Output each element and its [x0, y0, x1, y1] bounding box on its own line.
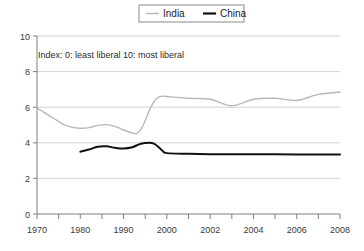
chart-container: 0246810 19701980199020002002200420062008…: [0, 0, 364, 251]
y-tick-label-0: 0: [25, 210, 30, 220]
chart-background: [0, 0, 364, 251]
x-tick-label-2002: 2002: [200, 225, 220, 235]
y-tick-label-6: 6: [25, 103, 30, 113]
x-tick-label-1970: 1970: [27, 225, 47, 235]
chart-annotation: Index: 0: least liberal 10: most liberal: [38, 50, 184, 60]
y-tick-label-2: 2: [25, 174, 30, 184]
y-tick-label-4: 4: [25, 138, 30, 148]
x-tick-label-1980: 1980: [70, 225, 90, 235]
chart-legend: IndiaChina: [139, 5, 247, 22]
legend-label-china: China: [220, 8, 247, 19]
y-tick-label-10: 10: [20, 32, 30, 42]
y-tick-label-8: 8: [25, 67, 30, 77]
x-tick-label-2004: 2004: [243, 225, 263, 235]
x-tick-label-2008: 2008: [330, 225, 350, 235]
x-tick-label-2006: 2006: [287, 225, 307, 235]
line-chart: 0246810 19701980199020002002200420062008…: [0, 0, 364, 251]
x-tick-label-1990: 1990: [114, 225, 134, 235]
x-tick-label-2000: 2000: [157, 225, 177, 235]
legend-label-india: India: [163, 8, 185, 19]
